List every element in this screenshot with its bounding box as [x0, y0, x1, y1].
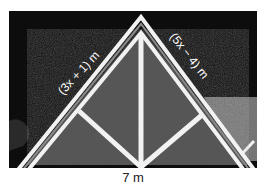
- roof-gable-photo: [9, 11, 257, 171]
- base-length-label: 7 m: [0, 170, 266, 185]
